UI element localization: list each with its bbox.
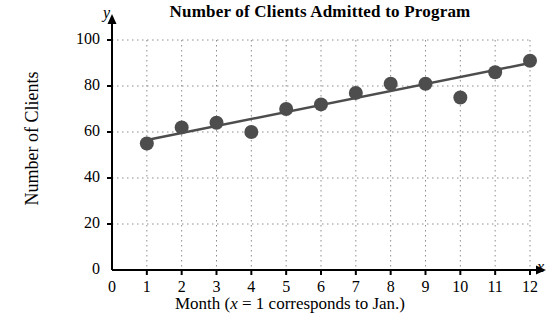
x-tick-label: 11 — [480, 278, 510, 296]
y-tick-label: 60 — [60, 122, 100, 140]
x-tick-label: 8 — [376, 278, 406, 296]
x-tick-label: 5 — [271, 278, 301, 296]
x-tick-label: 2 — [167, 278, 197, 296]
x-tick-label: 9 — [411, 278, 441, 296]
data-point — [279, 102, 293, 116]
x-tick-label: 6 — [306, 278, 336, 296]
x-tick-label: 1 — [132, 278, 162, 296]
x-tick-label: 4 — [236, 278, 266, 296]
data-point — [314, 97, 328, 111]
data-point — [140, 137, 154, 151]
data-point — [210, 116, 224, 130]
x-tick-label: 0 — [97, 278, 127, 296]
chart-figure: Number of Clients Admitted to Program y … — [0, 0, 554, 326]
y-tick-label: 40 — [60, 168, 100, 186]
y-axis-arrowhead — [108, 14, 117, 24]
y-tick-label: 100 — [60, 30, 100, 48]
y-tick-label: 0 — [60, 260, 100, 278]
data-point — [488, 65, 502, 79]
x-tick-label: 3 — [202, 278, 232, 296]
y-tick-label: 80 — [60, 76, 100, 94]
data-point — [349, 86, 363, 100]
data-point — [453, 91, 467, 105]
data-point — [384, 77, 398, 91]
x-axis-arrowhead — [536, 266, 546, 275]
y-tick-label: 20 — [60, 214, 100, 232]
x-tick-label: 7 — [341, 278, 371, 296]
data-point — [419, 77, 433, 91]
x-tick-label: 10 — [445, 278, 475, 296]
data-point — [244, 125, 258, 139]
x-tick-label: 12 — [515, 278, 545, 296]
data-point — [175, 120, 189, 134]
data-point — [523, 54, 537, 68]
trend-line — [147, 63, 530, 140]
